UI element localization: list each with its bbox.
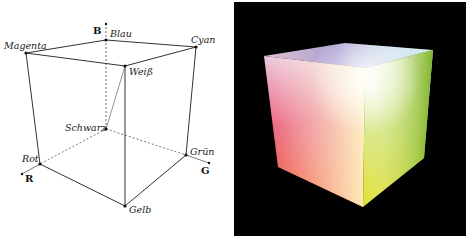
edge-cyan-gruen (186, 47, 196, 155)
color-cube-render (234, 2, 466, 236)
edge-gruen-gelb (125, 155, 186, 206)
grey-diagonal (106, 66, 125, 129)
cube-wireframe: Magenta Blau Cyan Weiß Schwarz Rot Grün … (0, 0, 230, 241)
r-axis-hidden (40, 129, 106, 164)
edge-rot-gelb (40, 164, 125, 206)
label-blau: Blau (109, 28, 132, 39)
g-axis-hidden (106, 129, 186, 155)
axis-label-b: B (93, 25, 101, 36)
label-weiss: Weiß (129, 66, 153, 77)
label-gruen: Grün (190, 146, 214, 157)
axis-label-g: G (201, 165, 210, 176)
axis-label-r: R (25, 173, 34, 184)
edge-magenta-rot (26, 53, 40, 164)
rendered-color-cube-panel (234, 2, 466, 236)
label-magenta: Magenta (3, 40, 47, 51)
rgb-cube-diagram: Magenta Blau Cyan Weiß Schwarz Rot Grün … (0, 0, 230, 241)
label-schwarz: Schwarz (65, 122, 107, 133)
label-cyan: Cyan (191, 34, 215, 45)
top-face (26, 40, 196, 66)
label-rot: Rot (21, 153, 39, 164)
label-gelb: Gelb (129, 204, 151, 215)
